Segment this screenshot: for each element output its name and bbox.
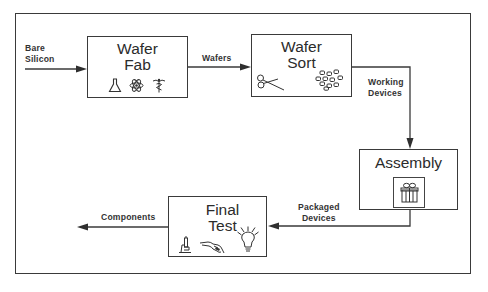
- caduceus-icon: [152, 78, 166, 93]
- wafer-fab-title-line1: Wafer: [88, 41, 187, 57]
- flask-icon: [108, 78, 122, 93]
- stage-wafer-fab: Wafer Fab: [87, 36, 188, 98]
- label-bare-silicon: Bare Silicon: [25, 43, 55, 64]
- label-wafers: Wafers: [202, 53, 232, 64]
- wafer-fab-title-line2: Fab: [88, 57, 187, 73]
- arrowhead-wafers: [240, 64, 251, 71]
- arrowhead-working-devices: [407, 138, 414, 149]
- arrowhead-components: [77, 224, 88, 231]
- label-packaged-devices: Packaged Devices: [298, 202, 340, 223]
- arrowhead-bare-silicon: [76, 66, 87, 73]
- final-test-title-line1: Final: [179, 202, 266, 218]
- probe-hand-icon: [199, 240, 227, 255]
- atom-icon: [129, 78, 144, 93]
- stage-assembly: Assembly: [359, 149, 458, 210]
- microscope-icon: [178, 236, 192, 254]
- label-components: Components: [101, 212, 156, 223]
- assembly-icon-frame: [393, 177, 425, 208]
- stage-final-test: Final Test: [168, 196, 267, 257]
- wafer-sort-title-line1: Wafer: [252, 39, 351, 55]
- stage-wafer-sort: Wafer Sort: [251, 34, 352, 97]
- arrowhead-packaged-devices: [268, 223, 279, 230]
- assembly-title: Assembly: [360, 155, 457, 171]
- light-bulb-icon: [237, 226, 259, 254]
- dice-chips-icon: [314, 69, 346, 91]
- gift-package-icon: [400, 182, 419, 203]
- label-working-devices: Working Devices: [368, 77, 404, 98]
- scissors-icon: [256, 73, 286, 92]
